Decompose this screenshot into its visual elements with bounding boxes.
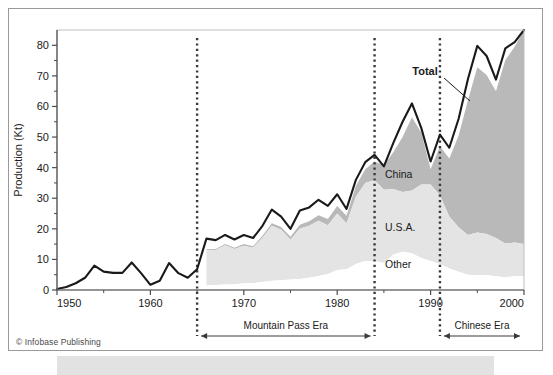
x-tick-label: 1950	[57, 297, 81, 309]
era-label-chinese: Chinese Era	[454, 320, 509, 331]
series-label-china: China	[385, 168, 413, 180]
x-tick-label: 1990	[418, 297, 442, 309]
y-tick-label: 80	[37, 39, 49, 51]
y-tick-label: 0	[43, 284, 49, 296]
y-tick-label: 40	[37, 162, 49, 174]
era-arrow-head	[514, 333, 520, 339]
series-label-other: Other	[385, 258, 412, 270]
x-tick-label: 1970	[232, 297, 256, 309]
era-label-mountain-pass: Mountain Pass Era	[244, 320, 329, 331]
era-arrow-head	[444, 333, 450, 339]
y-tick-label: 70	[37, 70, 49, 82]
y-tick-label: 50	[37, 131, 49, 143]
chart-canvas: Mountain Pass EraChinese Era 01020304050…	[0, 0, 553, 375]
copyright-credit: © Infobase Publishing	[16, 337, 101, 347]
y-tick-label: 60	[37, 100, 49, 112]
era-arrow-head	[201, 333, 207, 339]
era-arrow-head	[365, 333, 371, 339]
series-label-usa: U.S.A.	[385, 221, 415, 233]
x-tick-label: 1960	[138, 297, 162, 309]
x-tick-label: 2000	[500, 297, 524, 309]
y-tick-label: 20	[37, 223, 49, 235]
series-label-total: Total	[412, 65, 437, 77]
y-axis-title: Production (Kt)	[12, 123, 24, 196]
y-tick-label: 30	[37, 192, 49, 204]
y-tick-label: 10	[37, 253, 49, 265]
figure-root: Mountain Pass EraChinese Era 01020304050…	[0, 0, 553, 375]
stacked-areas-group	[206, 30, 524, 290]
x-tick-label: 1980	[325, 297, 349, 309]
production-area-chart: Mountain Pass EraChinese Era 01020304050…	[0, 0, 553, 375]
